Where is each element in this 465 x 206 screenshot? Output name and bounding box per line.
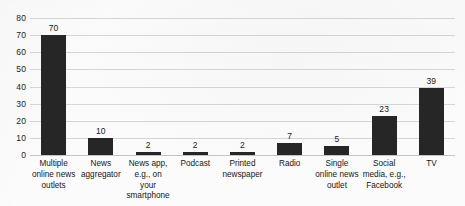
x-axis-category-label: News app, e.g., on your smartphone — [124, 159, 171, 205]
x-axis-category-label: News aggregator — [77, 159, 124, 205]
bar — [41, 35, 66, 155]
bar — [419, 88, 444, 155]
y-axis-tick-80: 80 — [4, 14, 26, 23]
x-axis-category-label: Podcast — [172, 159, 219, 205]
y-axis-tick-50: 50 — [4, 65, 26, 74]
bar — [372, 116, 397, 155]
y-axis-tick-60: 60 — [4, 48, 26, 57]
bar-value-label: 70 — [49, 24, 59, 33]
x-axis-category-label: Single online news outlet — [313, 159, 360, 205]
y-axis-tick-30: 30 — [4, 99, 26, 108]
x-axis-category-label: Social media, e.g., Facebook — [361, 159, 408, 205]
x-axis-category-label: Printed newspaper — [219, 159, 266, 205]
x-axis-category-labels: Multiple online news outlets News aggreg… — [30, 159, 455, 205]
bar — [183, 152, 208, 155]
bar-slot: 5 — [313, 18, 360, 155]
bar — [230, 152, 255, 155]
bars-layer: 70 10 2 2 2 7 5 23 — [30, 18, 455, 155]
bar-value-label: 7 — [287, 132, 292, 141]
bar-value-label: 2 — [193, 141, 198, 150]
bar-slot: 23 — [361, 18, 408, 155]
y-axis-tick-70: 70 — [4, 31, 26, 40]
bar-slot: 2 — [172, 18, 219, 155]
bar-value-label: 39 — [427, 77, 437, 86]
bar-value-label: 2 — [240, 141, 245, 150]
bar-value-label: 23 — [379, 105, 389, 114]
x-axis-category-label: Multiple online news outlets — [30, 159, 77, 205]
bar — [136, 152, 161, 155]
bar-slot: 70 — [30, 18, 77, 155]
y-axis-tick-10: 10 — [4, 134, 26, 143]
bar — [324, 146, 349, 155]
bar — [88, 138, 113, 155]
x-axis-category-label: TV — [408, 159, 455, 205]
y-axis-tick-40: 40 — [4, 82, 26, 91]
y-axis-tick-20: 20 — [4, 117, 26, 126]
bar-slot: 2 — [219, 18, 266, 155]
y-axis-labels: 80 70 60 50 40 30 20 10 0 — [0, 18, 26, 155]
bar-slot: 2 — [124, 18, 171, 155]
bar-slot: 10 — [77, 18, 124, 155]
bar-chart: 80 70 60 50 40 30 20 10 0 70 10 2 — [0, 0, 465, 206]
bar — [277, 143, 302, 155]
y-axis-tick-0: 0 — [4, 151, 26, 160]
x-axis-category-label: Radio — [266, 159, 313, 205]
bar-value-label: 10 — [96, 127, 106, 136]
gridline-baseline-0 — [30, 155, 455, 156]
bar-slot: 7 — [266, 18, 313, 155]
bar-value-label: 5 — [335, 135, 340, 144]
bar-slot: 39 — [408, 18, 455, 155]
bar-value-label: 2 — [146, 141, 151, 150]
